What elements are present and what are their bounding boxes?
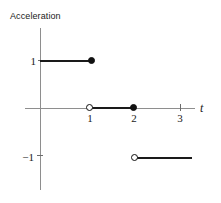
x-tick-label-3: 3 [174,112,186,124]
segment-level-negative-one [136,157,192,159]
endpoint-open-t2-yneg1 [131,154,138,161]
segment-level-one [40,60,92,62]
y-tick-negative-mark [37,155,43,156]
y-tick-label-positive: 1 [22,55,36,67]
y-axis-title: Acceleration [10,11,61,21]
y-axis-line [40,28,41,190]
segment-level-zero [90,107,134,109]
endpoint-open-t1-y0 [86,104,93,111]
x-tick-label-2: 2 [128,112,140,124]
x-tick-label-1: 1 [84,112,96,124]
y-tick-label-negative: −1 [12,151,34,163]
x-axis-variable-label: t [200,101,203,116]
acceleration-step-graph: Acceleration 1 −1 1 2 3 t [0,0,221,203]
endpoint-closed-t2-y0 [130,104,137,111]
x-tick-3 [180,104,181,111]
endpoint-closed-t1-y1 [88,57,95,64]
